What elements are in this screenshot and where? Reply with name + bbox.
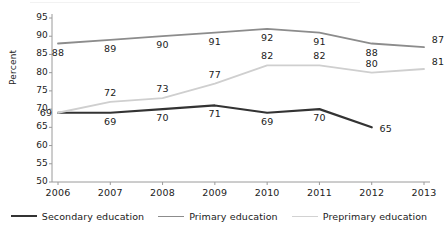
data-label: 70 bbox=[307, 112, 331, 123]
data-label: 82 bbox=[307, 50, 331, 61]
data-label: 81 bbox=[426, 56, 448, 67]
data-label: 88 bbox=[46, 47, 70, 58]
data-label: 82 bbox=[255, 50, 279, 61]
data-label: 69 bbox=[34, 107, 58, 118]
legend-label: Preprimary education bbox=[323, 211, 427, 222]
legend-label: Secondary education bbox=[42, 211, 144, 222]
legend-item[interactable]: Primary education bbox=[158, 211, 278, 222]
data-label: 91 bbox=[307, 36, 331, 47]
legend-line-swatch bbox=[11, 215, 37, 217]
data-label: 70 bbox=[151, 112, 175, 123]
data-label: 71 bbox=[203, 108, 227, 119]
legend-item[interactable]: Secondary education bbox=[11, 211, 144, 222]
data-label: 77 bbox=[203, 69, 227, 80]
data-label: 87 bbox=[426, 34, 448, 45]
chart-legend: Secondary educationPrimary educationPrep… bbox=[0, 206, 438, 226]
data-label: 69 bbox=[255, 116, 279, 127]
data-label: 65 bbox=[374, 123, 398, 134]
legend-line-swatch bbox=[292, 216, 318, 217]
data-label: 80 bbox=[360, 58, 384, 69]
data-label: 88 bbox=[360, 47, 384, 58]
data-label: 90 bbox=[151, 39, 175, 50]
data-label: 92 bbox=[255, 32, 279, 43]
legend-line-swatch bbox=[158, 216, 184, 217]
data-label: 72 bbox=[98, 87, 122, 98]
data-label: 73 bbox=[151, 83, 175, 94]
legend-label: Primary education bbox=[189, 211, 278, 222]
data-label: 69 bbox=[98, 116, 122, 127]
data-label: 91 bbox=[203, 36, 227, 47]
legend-item[interactable]: Preprimary education bbox=[292, 211, 427, 222]
data-label: 89 bbox=[98, 43, 122, 54]
